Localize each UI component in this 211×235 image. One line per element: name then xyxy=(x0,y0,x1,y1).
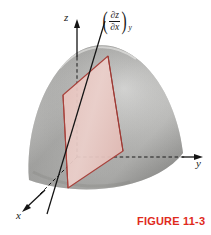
figure-caption: FIGURE 11-3 xyxy=(137,215,205,227)
held-constant-subscript: y xyxy=(129,24,132,32)
fraction-numerator: ∂z xyxy=(110,11,120,21)
z-axis-label: z xyxy=(64,12,68,23)
figure-container: z y x ( ∂z ∂x ) y FIGURE 11-3 xyxy=(0,0,211,235)
x-axis-label: x xyxy=(16,210,21,221)
figure-graphic xyxy=(0,0,211,235)
open-paren: ( xyxy=(103,11,108,32)
close-paren: ) xyxy=(122,11,127,32)
x-axis-line xyxy=(27,190,45,207)
partial-derivative-annotation: ( ∂z ∂x ) y xyxy=(101,11,132,32)
z-axis-arrowhead xyxy=(74,19,80,28)
y-axis-label: y xyxy=(196,158,201,169)
partial-fraction: ∂z ∂x xyxy=(109,11,120,32)
fraction-denominator: ∂x xyxy=(109,23,120,33)
